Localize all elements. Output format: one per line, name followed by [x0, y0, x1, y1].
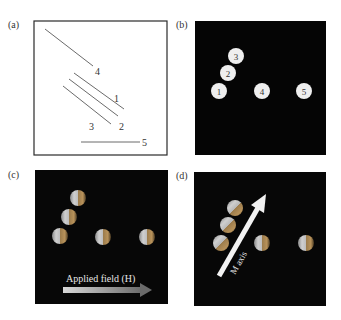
- panel-b: (b) 3 2 1 4 5: [176, 19, 326, 155]
- particle-2: 2: [220, 65, 236, 81]
- sphere: [254, 235, 270, 251]
- particle-5-label: 5: [302, 87, 307, 97]
- particle-4: 4: [254, 83, 270, 99]
- particle-3: 3: [228, 48, 244, 64]
- sphere: [61, 209, 77, 225]
- line-3-label: 3: [89, 121, 94, 132]
- line-2-label: 2: [119, 121, 124, 132]
- figure: (a) 4 1 2 3 5 (b) 3 2 1 4: [0, 0, 341, 320]
- sphere: [95, 229, 111, 245]
- panel-b-label: (b): [176, 19, 188, 31]
- panel-a-label: (a): [8, 19, 19, 31]
- particle-4-label: 4: [260, 87, 265, 97]
- line-4-label: 4: [95, 66, 100, 77]
- panel-d: (d) M axis: [176, 170, 326, 306]
- particle-5: 5: [296, 83, 312, 99]
- panel-c-label: (c): [8, 169, 19, 181]
- line-1-label: 1: [114, 93, 119, 104]
- particle-2-label: 2: [226, 69, 231, 79]
- sphere: [227, 200, 243, 216]
- particle-1-label: 1: [217, 87, 222, 97]
- sphere: [298, 235, 314, 251]
- particle-1: 1: [211, 83, 227, 99]
- panel-c: (c) Applied field (H): [8, 169, 168, 304]
- sphere: [220, 217, 236, 233]
- panel-a: (a) 4 1 2 3 5: [8, 19, 167, 155]
- sphere: [70, 190, 86, 206]
- sphere: [139, 229, 155, 245]
- particle-3-label: 3: [234, 52, 239, 62]
- sphere: [213, 235, 229, 251]
- applied-field-label: Applied field (H): [66, 273, 135, 285]
- panel-a-frame: [34, 21, 167, 155]
- sphere: [52, 228, 68, 244]
- panel-d-label: (d): [176, 170, 188, 182]
- line-5-label: 5: [142, 137, 147, 148]
